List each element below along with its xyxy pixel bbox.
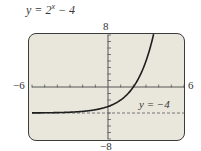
ymax-label: 8 — [103, 20, 109, 32]
chart-title: y = 2x − 4 — [26, 2, 75, 18]
ymin-label: −8 — [100, 140, 112, 151]
plot-area — [29, 34, 185, 141]
plot-frame: y = −4 — [28, 33, 185, 141]
xmin-label: −6 — [13, 79, 25, 91]
function-curve — [32, 34, 154, 113]
asymptote-label: y = −4 — [139, 98, 170, 110]
xmax-label: 6 — [188, 79, 194, 91]
